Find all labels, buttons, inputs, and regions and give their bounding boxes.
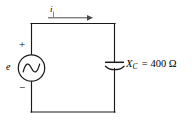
source-minus-sign: − bbox=[19, 82, 25, 93]
source-plus-sign: + bbox=[19, 39, 25, 50]
circuit-figure: i + e − XC=400Ω bbox=[0, 0, 192, 129]
reactance-equals-sign: = bbox=[142, 59, 148, 70]
current-arrow-head bbox=[87, 15, 93, 21]
reactance-subscript: C bbox=[133, 63, 138, 71]
source-emf-label: e bbox=[6, 62, 10, 72]
current-label: i bbox=[50, 5, 53, 14]
reactance-unit: Ω bbox=[169, 59, 177, 70]
reactance-value: 400 bbox=[151, 59, 167, 70]
ac-source-symbol bbox=[18, 55, 44, 81]
reactance-symbol: X bbox=[126, 59, 132, 70]
current-arrow bbox=[48, 12, 93, 21]
capacitive-reactance-label: XC=400Ω bbox=[126, 59, 177, 70]
